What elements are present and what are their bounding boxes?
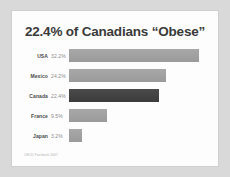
bar-row: France9.5% bbox=[12, 109, 218, 122]
bar-fill bbox=[69, 69, 166, 82]
bar-fill bbox=[69, 49, 199, 62]
bar-category-label: Mexico bbox=[12, 73, 48, 79]
bar-value-label: 3.2% bbox=[51, 133, 69, 139]
bar-row: USA32.2% bbox=[12, 49, 218, 62]
slide-panel: 22.4% of Canadians “Obese” USA32.2%Mexic… bbox=[11, 10, 219, 167]
bar-value-label: 9.5% bbox=[51, 113, 69, 119]
bar-value-label: 22.4% bbox=[51, 93, 69, 99]
page-title: 22.4% of Canadians “Obese” bbox=[12, 24, 218, 39]
bar-fill-highlighted bbox=[69, 89, 159, 102]
bar-category-label: Canada bbox=[12, 93, 48, 99]
bar-track bbox=[69, 49, 210, 62]
bar-track bbox=[69, 109, 210, 122]
bar-chart: USA32.2%Mexico24.2%Canada22.4%France9.5%… bbox=[12, 49, 218, 149]
bar-value-label: 32.2% bbox=[51, 53, 69, 59]
chart-footnote: OECD Factbook 2007 bbox=[24, 153, 58, 157]
bar-category-label: France bbox=[12, 113, 48, 119]
bar-category-label: USA bbox=[12, 53, 48, 59]
bar-fill bbox=[69, 129, 82, 142]
bar-row: Japan3.2% bbox=[12, 129, 218, 142]
bar-track bbox=[69, 89, 210, 102]
bar-category-label: Japan bbox=[12, 133, 48, 139]
bar-fill bbox=[69, 109, 107, 122]
bar-value-label: 24.2% bbox=[51, 73, 69, 79]
bar-row: Mexico24.2% bbox=[12, 69, 218, 82]
bar-row: Canada22.4% bbox=[12, 89, 218, 102]
bar-track bbox=[69, 69, 210, 82]
bar-track bbox=[69, 129, 210, 142]
